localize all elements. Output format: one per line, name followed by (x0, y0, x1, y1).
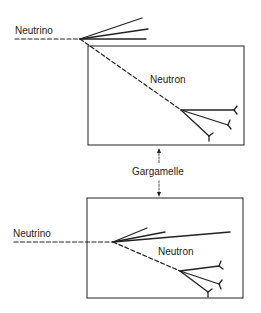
top-primary-tracks (80, 18, 148, 39)
top-neutrino-label: Neutrino (15, 26, 53, 36)
arrow-down-icon (157, 192, 161, 197)
top-neutron-shower (181, 106, 237, 141)
bottom-primary-tracks (113, 228, 230, 242)
arrow-up-icon (157, 148, 161, 153)
top-neutron-label: Neutron (150, 75, 186, 85)
bottom-neutron-label: Neutron (158, 247, 194, 257)
bottom-neutron-shower (180, 261, 223, 297)
top-chamber-frame (88, 46, 244, 145)
chamber-label: Gargamelle (132, 167, 184, 177)
diagram-canvas (0, 0, 261, 313)
bottom-neutrino-label: Neutrino (13, 229, 51, 239)
